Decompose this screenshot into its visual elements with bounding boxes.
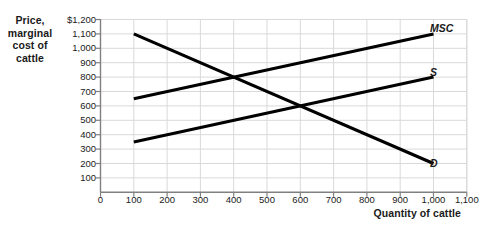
curve-s [134, 77, 434, 142]
curve-label-d: D [430, 157, 438, 169]
economics-supply-demand-figure: Price, marginal cost of cattle 100200300… [0, 0, 479, 237]
curve-label-msc: MSC [430, 22, 453, 34]
series-curves [134, 34, 434, 164]
curve-d [134, 34, 434, 164]
curve-msc [134, 34, 434, 99]
x-tick-label: 1,100 [447, 194, 479, 205]
x-axis-tick-labels: 01002003004005006007008009001,0001,100 [0, 194, 479, 208]
curve-label-s: S [430, 66, 437, 78]
gridlines [101, 20, 467, 193]
tick-marks [96, 20, 467, 197]
x-axis-title: Quantity of cattle [373, 207, 461, 219]
